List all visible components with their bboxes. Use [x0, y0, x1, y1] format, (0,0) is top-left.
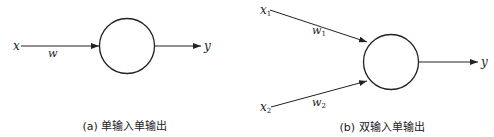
weight-w1-label: w1	[312, 24, 326, 38]
weight-w2-label: w2	[312, 96, 326, 110]
neuron-circle	[100, 19, 155, 74]
neuron-circle	[364, 35, 419, 90]
input-x2-label: x2	[260, 100, 271, 115]
dual-input-neuron-diagram: x1 w1 x2 w2 y (b) 双输入单输出	[260, 3, 488, 134]
input-x-label: x	[13, 39, 20, 53]
input-x1-label: x1	[260, 3, 271, 18]
single-input-neuron-diagram: x w y (a) 单输入单输出	[13, 19, 211, 134]
neuron-diagrams: x w y (a) 单输入单输出 x1 w1 x2 w2 y (b) 双输入单输…	[0, 0, 494, 137]
caption-b: (b) 双输入单输出	[339, 120, 424, 134]
caption-a: (a) 单输入单输出	[83, 119, 168, 133]
output-y-label: y	[203, 39, 211, 53]
output-y-label: y	[480, 55, 488, 69]
weight-w-label: w	[48, 47, 58, 60]
